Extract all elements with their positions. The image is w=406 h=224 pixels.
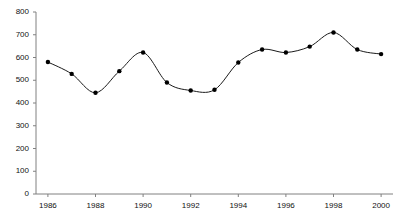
y-tick-label: 0 <box>3 190 29 198</box>
data-point-marker <box>189 88 193 92</box>
x-tick-label: 1998 <box>314 202 354 210</box>
series-line <box>48 32 381 92</box>
data-point-marker <box>212 88 216 92</box>
y-tick-label: 400 <box>3 99 29 107</box>
y-tick-label: 600 <box>3 54 29 62</box>
line-chart: 0100200300400500600700800 19861988199019… <box>0 0 406 224</box>
data-point-marker <box>236 60 240 64</box>
data-point-marker <box>308 44 312 48</box>
y-tick-label: 200 <box>3 145 29 153</box>
data-point-marker <box>260 47 264 51</box>
data-point-marker <box>165 80 169 84</box>
x-tick-label: 1986 <box>28 202 68 210</box>
axis-ticks <box>33 12 381 197</box>
data-point-marker <box>331 30 335 34</box>
y-tick-label: 100 <box>3 167 29 175</box>
data-point-marker <box>117 69 121 73</box>
data-point-marker <box>355 47 359 51</box>
x-tick-label: 1994 <box>218 202 258 210</box>
y-tick-label: 800 <box>3 8 29 16</box>
y-tick-label: 300 <box>3 122 29 130</box>
data-point-marker <box>46 60 50 64</box>
y-tick-label: 700 <box>3 31 29 39</box>
x-tick-label: 1990 <box>123 202 163 210</box>
data-point-marker <box>70 72 74 76</box>
x-tick-label: 1992 <box>171 202 211 210</box>
x-tick-label: 1988 <box>76 202 116 210</box>
plot-area <box>0 0 406 224</box>
axes <box>36 12 393 194</box>
x-tick-label: 1996 <box>266 202 306 210</box>
data-point-marker <box>141 50 145 54</box>
data-point-marker <box>379 52 383 56</box>
data-point-markers <box>46 30 384 95</box>
data-point-marker <box>284 50 288 54</box>
x-tick-label: 2000 <box>361 202 401 210</box>
data-point-marker <box>93 91 97 95</box>
y-tick-label: 500 <box>3 76 29 84</box>
